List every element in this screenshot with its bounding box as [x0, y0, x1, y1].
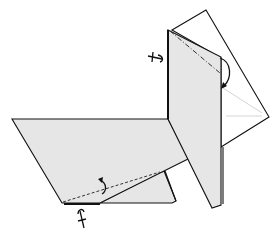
pivot-symbol-upper [148, 52, 162, 62]
diagram-canvas [0, 0, 275, 236]
origami-diagram [0, 0, 275, 236]
vertical-panel [168, 30, 221, 208]
pivot-symbol-lower [78, 210, 86, 228]
